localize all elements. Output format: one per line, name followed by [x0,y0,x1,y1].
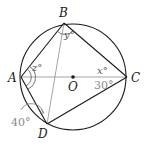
chord-bd [47,23,64,124]
angle-label-x: x° [97,65,108,76]
label-o: O [68,80,78,94]
angle-mark-a-inner [26,69,31,86]
angle-label-y: y° [63,29,75,40]
label-d: D [37,127,48,141]
label-c: C [131,71,140,85]
circle-geometry-diagram: A B C D O z° y° x° 30° 40° [0,0,148,150]
angle-label-40: 40° [11,116,31,129]
center-point [71,75,75,79]
angle-label-z: z° [31,62,42,73]
label-a: A [7,71,17,85]
angle-label-30: 30° [94,79,114,92]
side-cd [47,77,127,124]
label-b: B [58,6,68,20]
